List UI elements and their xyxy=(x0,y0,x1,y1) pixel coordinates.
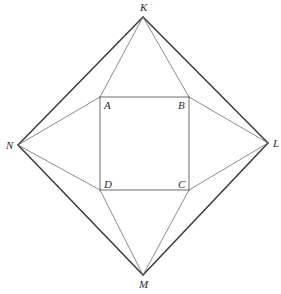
inner-square-edges xyxy=(100,97,189,190)
connector-KA xyxy=(100,17,143,97)
connector-NA xyxy=(18,97,100,145)
geometry-figure-canvas: KLMNABCD xyxy=(0,0,281,294)
connector-LC xyxy=(189,143,268,190)
outer-quadrilateral-edges xyxy=(18,17,268,275)
vertex-label-K: K xyxy=(139,1,148,13)
vertex-label-D: D xyxy=(103,178,112,190)
geometry-diagram: KLMNABCD xyxy=(0,0,281,294)
vertex-label-M: M xyxy=(138,278,149,290)
vertex-label-L: L xyxy=(272,137,279,149)
edge-NK xyxy=(18,17,143,145)
vertex-label-N: N xyxy=(5,139,14,151)
connector-MD xyxy=(100,190,143,275)
connector-MC xyxy=(143,190,189,275)
edge-KL xyxy=(143,17,268,143)
vertex-label-C: C xyxy=(178,178,186,190)
vertex-connector-edges xyxy=(18,17,268,275)
edge-MN xyxy=(18,145,143,275)
edge-LM xyxy=(143,143,268,275)
vertex-labels: KLMNABCD xyxy=(5,1,279,290)
vertex-label-B: B xyxy=(178,99,185,111)
connector-ND xyxy=(18,145,100,190)
vertex-label-A: A xyxy=(103,99,111,111)
